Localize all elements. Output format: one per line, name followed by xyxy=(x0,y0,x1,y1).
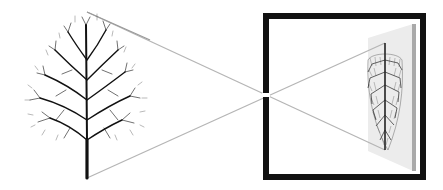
pinhole-camera-diagram: Pinhole camera projection xyxy=(0,0,443,190)
projection-screen xyxy=(368,24,413,171)
light-rays xyxy=(87,12,385,178)
pinhole xyxy=(262,93,270,97)
tree-subject xyxy=(25,14,147,178)
screen-edge xyxy=(412,24,416,171)
